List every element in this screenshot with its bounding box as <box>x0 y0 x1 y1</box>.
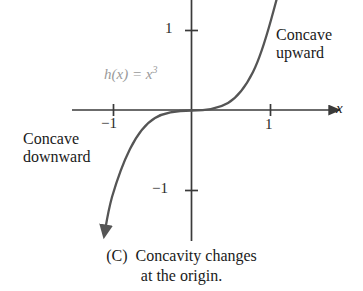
function-equation-base: h(x) = x <box>104 66 152 82</box>
caption-line-1: Concavity changes <box>136 247 257 264</box>
caption-first-line: (C) Concavity changes <box>0 246 363 266</box>
y-axis-tick-label-negative: −1 <box>152 180 168 197</box>
cubic-curve-right <box>192 0 278 111</box>
annotation-concave-upward-line1: Concave <box>276 26 332 43</box>
annotation-concave-upward: Concave upward <box>276 26 332 62</box>
annotation-concave-downward-line1: Concave <box>23 130 79 147</box>
y-axis-tick-label-positive: 1 <box>165 20 173 37</box>
concavity-figure: 1 −1 −1 1 x h(x) = x3 Concave upward Con… <box>0 0 363 291</box>
caption-line-2: at the origin. <box>0 266 363 286</box>
cubic-curve-left <box>106 111 192 229</box>
x-axis-tick-label-negative: −1 <box>101 115 117 132</box>
caption-tag: (C) <box>106 247 127 264</box>
function-equation-exponent: 3 <box>152 64 157 75</box>
annotation-concave-downward: Concave downward <box>23 130 91 166</box>
x-axis-tick-label-positive: 1 <box>265 116 273 133</box>
annotation-concave-downward-line2: downward <box>23 148 91 165</box>
x-axis-label: x <box>336 100 343 117</box>
annotation-concave-upward-line2: upward <box>276 44 324 61</box>
function-equation-label: h(x) = x3 <box>104 66 157 83</box>
figure-caption: (C) Concavity changes at the origin. <box>0 246 363 286</box>
